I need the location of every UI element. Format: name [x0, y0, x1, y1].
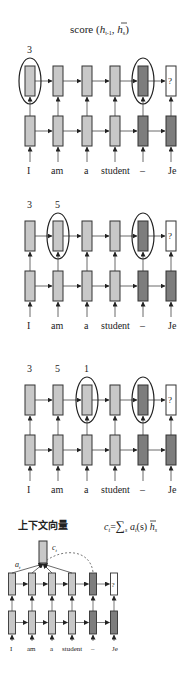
embedding-box [25, 116, 35, 146]
hidden-state-box [82, 385, 92, 415]
hidden-state-box [90, 573, 97, 595]
token-label: a [50, 645, 54, 653]
token-label: I [27, 165, 30, 176]
query-dashed-arrow [47, 553, 93, 572]
score-title: score (ht-1, hs) [70, 23, 129, 36]
embedding-box [82, 271, 92, 301]
embedding-box [25, 435, 35, 465]
embedding-box [9, 611, 16, 634]
hidden-state-box [110, 385, 120, 415]
token-label: – [90, 645, 95, 653]
embedding-box [138, 271, 148, 301]
embedding-box [110, 116, 120, 146]
embedding-box [53, 271, 63, 301]
embedding-box [166, 116, 176, 146]
token-label: a [84, 484, 89, 495]
token-label: I [10, 645, 13, 653]
token-label: – [139, 484, 146, 495]
attention-weight-label: at [15, 560, 21, 570]
score-value: 3 [27, 199, 32, 210]
unknown-output-mark: ? [112, 581, 115, 589]
token-label: am [27, 645, 36, 653]
hidden-state-box [9, 573, 16, 595]
hidden-state-box [110, 66, 120, 96]
context-formula: ct=∑s at(s) hs [104, 518, 158, 533]
context-vector-box [39, 541, 47, 563]
embedding-box [69, 611, 76, 634]
token-label: am [51, 165, 63, 176]
hidden-state-box [138, 385, 148, 415]
hidden-state-box [53, 66, 63, 96]
hidden-state-box [29, 573, 36, 595]
embedding-box [138, 435, 148, 465]
unknown-output-mark: ? [168, 76, 172, 86]
score-value: 1 [84, 363, 89, 374]
score-value: 5 [55, 199, 60, 210]
embedding-box [138, 116, 148, 146]
hidden-state-box [138, 221, 148, 251]
hidden-state-box [82, 221, 92, 251]
score-value: 3 [27, 44, 32, 55]
token-label: am [51, 484, 63, 495]
embedding-box [166, 435, 176, 465]
attention-diagram: score (ht-1, hs) 3Iamastudent–?Je35Iamas… [0, 0, 189, 680]
context-vector-label: ct [52, 543, 58, 553]
embedding-box [110, 271, 120, 301]
hidden-state-box [49, 573, 56, 595]
hidden-state-box [53, 221, 63, 251]
token-label: a [84, 165, 89, 176]
token-label: Je [168, 484, 177, 495]
token-label: a [84, 320, 89, 331]
token-label: am [51, 320, 63, 331]
hidden-state-box [69, 573, 76, 595]
hidden-state-box [138, 66, 148, 96]
token-label: Je [168, 320, 177, 331]
token-label: Je [168, 165, 177, 176]
embedding-box [166, 271, 176, 301]
token-label: Je [112, 645, 118, 653]
token-label: student [101, 484, 130, 495]
token-label: student [101, 165, 130, 176]
token-label: student [62, 645, 82, 653]
score-value: 3 [27, 363, 32, 374]
embedding-box [53, 116, 63, 146]
token-label: I [27, 484, 30, 495]
hidden-state-box [25, 66, 35, 96]
embedding-box [53, 435, 63, 465]
token-label: student [101, 320, 130, 331]
embedding-box [49, 611, 56, 634]
hidden-state-box [25, 385, 35, 415]
hidden-state-box [53, 385, 63, 415]
hidden-state-box [25, 221, 35, 251]
hidden-state-box [82, 66, 92, 96]
embedding-box [111, 611, 118, 634]
embedding-box [25, 271, 35, 301]
token-label: I [27, 320, 30, 331]
embedding-box [29, 611, 36, 634]
embedding-box [90, 611, 97, 634]
token-label: – [139, 165, 146, 176]
token-label: – [139, 320, 146, 331]
score-value: 5 [55, 363, 60, 374]
embedding-box [110, 435, 120, 465]
unknown-output-mark: ? [168, 231, 172, 241]
unknown-output-mark: ? [168, 395, 172, 405]
context-vector-heading: 上下文向量 [18, 519, 68, 531]
embedding-box [82, 116, 92, 146]
hidden-state-box [110, 221, 120, 251]
embedding-box [82, 435, 92, 465]
